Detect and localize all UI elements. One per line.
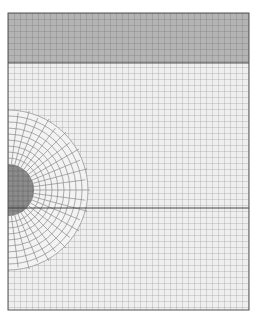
fe-mesh-diagram	[0, 0, 255, 322]
